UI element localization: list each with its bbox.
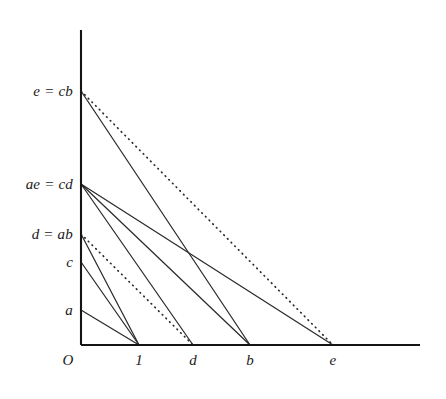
axes-group bbox=[81, 30, 420, 345]
x-axis-tick-label-0: O bbox=[62, 352, 73, 369]
line-segments-group bbox=[81, 91, 333, 345]
diagram-canvas bbox=[0, 0, 446, 399]
segment-ab-to-1 bbox=[81, 234, 139, 345]
x-axis-tick-label-1: 1 bbox=[135, 352, 143, 369]
geometric-diagram: e = cbae = cdd = abca O1dbe bbox=[0, 0, 446, 399]
y-axis-tick-label-4: a bbox=[65, 302, 73, 319]
y-axis-tick-label-3: c bbox=[66, 254, 73, 271]
segment-cd-to-b bbox=[81, 184, 250, 345]
x-axis-tick-label-4: e bbox=[330, 352, 337, 369]
y-axis-tick-label-1: ae = cd bbox=[26, 176, 73, 193]
y-axis-tick-label-0: e = cb bbox=[33, 83, 73, 100]
y-axis-tick-label-2: d = ab bbox=[32, 226, 73, 243]
segment-cd-to-e bbox=[81, 184, 333, 345]
segment-c-to-1 bbox=[81, 262, 139, 345]
segment-cb-to-b bbox=[81, 91, 250, 345]
x-axis-tick-label-2: d bbox=[189, 352, 197, 369]
segment-ab-to-d bbox=[81, 234, 193, 345]
x-axis-tick-label-3: b bbox=[246, 352, 254, 369]
